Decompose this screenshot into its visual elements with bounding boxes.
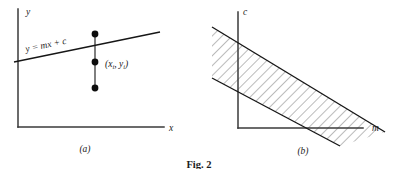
panel-a: y x y = mx + c (xi, yi) (a) bbox=[14, 7, 174, 155]
panel-a-data-point-lower bbox=[92, 85, 99, 92]
panel-a-y-axis-label: y bbox=[25, 7, 31, 17]
figure-canvas: y x y = mx + c (xi, yi) (a) bbox=[0, 0, 398, 169]
panel-b-m-axis-label: m bbox=[372, 123, 379, 133]
panel-a-point-label: (xi, yi) bbox=[105, 59, 128, 70]
panel-a-x-axis-label: x bbox=[168, 123, 174, 133]
panel-b: c m (b) bbox=[212, 7, 385, 157]
panel-a-caption: (a) bbox=[79, 144, 90, 155]
panel-a-data-point-middle bbox=[92, 59, 99, 66]
panel-a-axes bbox=[18, 9, 164, 127]
panel-a-data-point-upper bbox=[92, 31, 99, 38]
figure-caption: Fig. 2 bbox=[186, 159, 211, 169]
panel-a-line-equation: y = mx + c bbox=[23, 36, 68, 55]
point-label-close: ) bbox=[124, 59, 128, 70]
figure-container: y x y = mx + c (xi, yi) (a) bbox=[0, 0, 398, 169]
panel-b-c-axis-label: c bbox=[243, 7, 248, 17]
panel-b-caption: (b) bbox=[297, 146, 308, 157]
